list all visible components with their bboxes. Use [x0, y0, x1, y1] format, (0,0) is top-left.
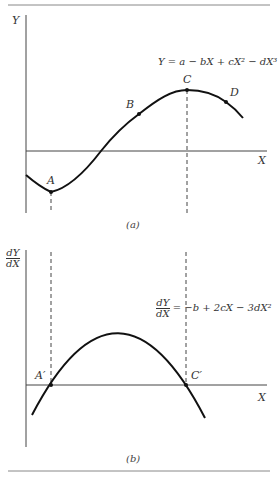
panel-b-y-label: dYdX: [6, 248, 20, 269]
label-D: D: [230, 86, 239, 99]
panel-b-parabola: [32, 333, 205, 418]
panel-a-caption: (a): [126, 219, 140, 230]
panel-a-x-label: X: [258, 154, 266, 167]
panel-b-eq-rhs: = −b + 2cX − 3dX²: [173, 302, 272, 313]
label-C-prime: C′: [191, 369, 202, 382]
point-D: [224, 100, 228, 104]
point-A: [49, 190, 53, 194]
panel-b-x-label: X: [258, 391, 266, 404]
diagram-canvas: [0, 0, 278, 477]
label-A-prime: A′: [35, 369, 45, 382]
panel-b-caption: (b): [126, 453, 140, 464]
label-A: A: [47, 174, 55, 187]
label-C: C: [183, 73, 191, 86]
point-A-prime: [49, 383, 53, 387]
point-C: [185, 88, 189, 92]
point-C-prime: [184, 383, 188, 387]
panel-a-y-label: Y: [12, 14, 19, 27]
panel-a-cubic-curve: [26, 90, 243, 192]
panel-b-eq-den: dX: [156, 309, 170, 319]
label-B: B: [126, 98, 134, 111]
panel-b-equation: dYdX = −b + 2cX − 3dX²: [156, 298, 272, 319]
point-B: [137, 112, 141, 116]
panel-b-y-label-den: dX: [6, 259, 20, 269]
panel-a-equation: Y = a − bX + cX² − dX³: [158, 56, 277, 67]
